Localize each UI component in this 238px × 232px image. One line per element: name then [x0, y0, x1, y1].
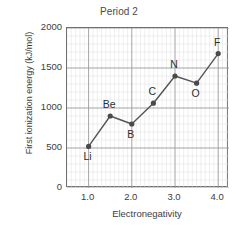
x-tick-3.0: 3.0	[161, 192, 187, 202]
point-label-c: C	[149, 86, 157, 96]
plot-area	[66, 27, 228, 187]
data-point-f	[216, 51, 221, 56]
data-series	[67, 28, 229, 188]
data-point-b	[129, 121, 134, 126]
point-label-be: Be	[103, 99, 116, 109]
data-point-li	[86, 144, 91, 149]
point-label-li: Li	[84, 151, 92, 161]
y-tick-500: 500	[18, 142, 62, 152]
x-tick-1.0: 1.0	[75, 192, 101, 202]
point-label-n: N	[170, 59, 178, 69]
point-label-b: B	[127, 129, 134, 139]
chart-figure: Period 2 First ionization energy (kJ/mol…	[0, 0, 238, 232]
x-tick-4.0: 4.0	[204, 192, 230, 202]
y-tick-1500: 1500	[18, 62, 62, 72]
y-tick-0: 0	[18, 182, 62, 192]
data-point-n	[172, 73, 177, 78]
data-point-be	[108, 113, 113, 118]
y-tick-2000: 2000	[18, 22, 62, 32]
data-point-c	[151, 101, 156, 106]
x-axis-label: Electronegativity	[66, 208, 228, 219]
data-point-o	[194, 81, 199, 86]
chart-title: Period 2	[0, 6, 238, 17]
y-tick-1000: 1000	[18, 102, 62, 112]
point-label-o: O	[192, 88, 200, 98]
point-label-f: F	[214, 37, 220, 47]
x-tick-2.0: 2.0	[118, 192, 144, 202]
